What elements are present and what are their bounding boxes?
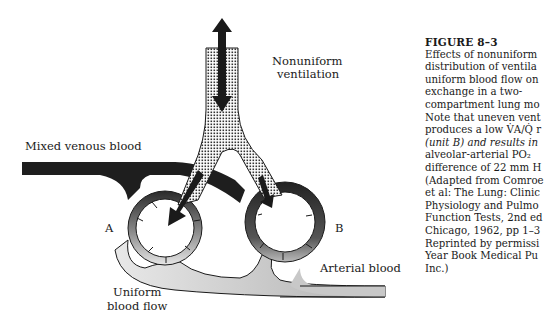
caption-line: et al: The Lung: Clinic xyxy=(425,187,548,200)
caption-line: compartment lung mo xyxy=(425,99,548,112)
caption-line: exchange in a two- xyxy=(425,86,548,99)
caption-line: alveolar-arterial PO₂ xyxy=(425,149,548,162)
figure-title: FIGURE 8–3 xyxy=(425,36,548,49)
caption-line: Chicago, 1962, pp 1–3 xyxy=(425,225,548,238)
lung-compartment-diagram: Nonuniform ventilation Mixed venous bloo… xyxy=(0,0,400,331)
label-unit-b: B xyxy=(335,222,343,235)
caption-line: uniform blood flow on xyxy=(425,74,548,87)
caption-line: distribution of ventila xyxy=(425,61,548,74)
caption-line: Year Book Medical Pu xyxy=(425,250,548,263)
caption-line: Physiology and Pulmo xyxy=(425,200,548,213)
caption-line: Function Tests, 2nd ed xyxy=(425,212,548,225)
caption-line: Effects of nonuniform xyxy=(425,49,548,62)
caption-line: Note that uneven vent xyxy=(425,112,548,125)
caption-line: difference of 22 mm H xyxy=(425,162,548,175)
label-uniform: Uniform xyxy=(113,286,161,299)
caption-line: produces a low V̇A/Q̇ r xyxy=(425,124,548,137)
label-unit-a: A xyxy=(105,222,113,235)
label-arterial-blood: Arterial blood xyxy=(320,262,401,275)
figure-caption: FIGURE 8–3 Effects of nonuniform distrib… xyxy=(425,36,548,275)
diagram-graphic xyxy=(0,0,400,331)
label-blood-flow: blood flow xyxy=(107,300,167,313)
caption-line: Inc.) xyxy=(425,263,548,276)
caption-line: Reprinted by permissi xyxy=(425,238,548,251)
caption-line: (Adapted from Comroe xyxy=(425,175,548,188)
label-ventilation: ventilation xyxy=(277,68,339,81)
label-mixed-venous-blood: Mixed venous blood xyxy=(25,140,142,153)
caption-line: (unit B) and results in xyxy=(425,137,548,150)
